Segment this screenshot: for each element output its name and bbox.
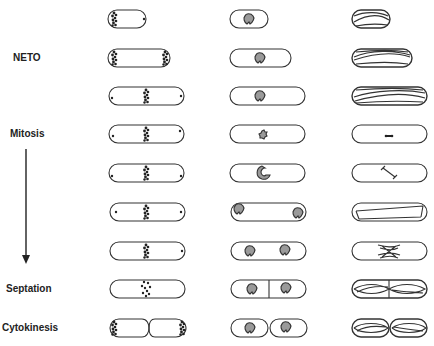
col1-row7-cell <box>110 280 185 298</box>
col3-row7-cell <box>352 280 427 298</box>
col1-row4-cell <box>109 164 184 182</box>
col2-row1-cell <box>230 49 291 67</box>
col2-row2-cell <box>230 87 305 105</box>
col3-row8-cell <box>352 319 427 337</box>
col1-row8-cell <box>110 319 186 337</box>
col3-row3-cell <box>352 125 427 143</box>
progression-arrow <box>22 149 30 264</box>
col3-row1-cell <box>352 49 412 67</box>
col2-row3-cell <box>230 125 305 143</box>
col3-row5-cell <box>352 203 427 221</box>
cell-cycle-diagram <box>0 0 434 346</box>
col1-row5-cell <box>110 203 185 221</box>
col1-row3-cell <box>109 125 184 143</box>
col2-row0-cell <box>230 10 268 28</box>
col1-row2-cell <box>109 87 184 105</box>
col2-row6-cell <box>231 242 306 260</box>
col2-row7-cell <box>231 280 306 298</box>
col3-row6-cell <box>352 242 427 260</box>
col1-row1-cell <box>108 49 170 67</box>
col3-row2-cell <box>352 87 427 105</box>
col2-row5-cell <box>231 203 306 221</box>
col1-row0-cell <box>108 10 146 28</box>
col3-row4-cell <box>352 164 427 182</box>
col3-row0-cell <box>352 10 390 28</box>
col1-row6-cell <box>110 242 185 260</box>
col2-row8-cell <box>231 319 307 337</box>
col2-row4-cell <box>230 164 305 182</box>
